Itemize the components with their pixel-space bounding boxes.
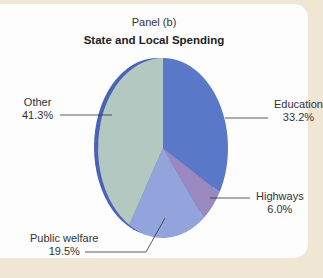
label-other: Other 41.3% <box>22 96 53 122</box>
label-education: Education 33.2% <box>274 98 323 124</box>
pie-slices <box>98 58 228 238</box>
label-highways: Highways 6.0% <box>256 190 304 216</box>
label-public-welfare: Public welfare 19.5% <box>30 232 98 258</box>
